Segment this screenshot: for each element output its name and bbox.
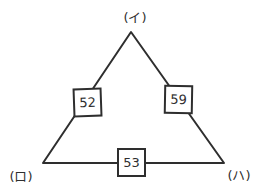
right-edge-value: 59 bbox=[170, 92, 187, 107]
left-edge-value: 52 bbox=[79, 95, 96, 111]
bottom-edge-value: 53 bbox=[123, 155, 140, 170]
triangle-outline bbox=[43, 32, 224, 163]
triangle-svg: 52 59 53 (イ) (ロ) (ハ) bbox=[0, 0, 270, 196]
bottom-right-vertex-label: (ハ) bbox=[227, 168, 250, 183]
triangle-diagram: 52 59 53 (イ) (ロ) (ハ) bbox=[0, 0, 270, 196]
top-vertex-label: (イ) bbox=[123, 10, 146, 25]
bottom-left-vertex-label: (ロ) bbox=[9, 169, 32, 184]
